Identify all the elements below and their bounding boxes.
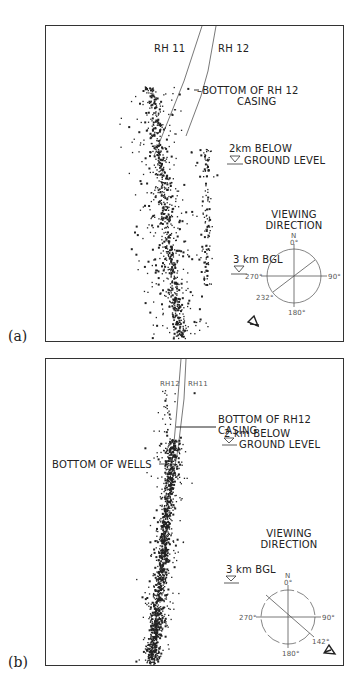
- depth-3km-label: 3 km BGL: [233, 254, 283, 265]
- depth-2km-line1: 2km BELOW: [229, 143, 292, 154]
- compass-view-angle: 142°: [312, 637, 330, 648]
- viewing-direction-title: VIEWINGDIRECTION: [264, 209, 324, 231]
- casing-annotation-line1: –BOTTOM OF RH 12: [197, 85, 299, 96]
- well-label-rh12: RH12: [160, 379, 180, 390]
- panel-label-b: (b): [8, 654, 28, 670]
- depth-marker-3km-icon: [226, 576, 236, 581]
- panel-label-a: (a): [8, 328, 27, 344]
- panel-a-seismic-projection: RH 11 RH 12 –BOTTOM OF RH 12 CASING 2km …: [45, 25, 344, 342]
- event-scatter-b: [46, 359, 345, 667]
- panel-b-seismic-projection: RH12 RH11 BOTTOM OF RH12 CASING BOTTOM O…: [45, 358, 344, 666]
- well-label-rh12: RH 12: [218, 43, 249, 54]
- casing-annotation-line2: CASING: [237, 96, 277, 107]
- compass-90: 90°: [322, 613, 335, 624]
- viewer-eye-icon: [248, 316, 259, 326]
- compass-270: 270°: [245, 272, 263, 283]
- depth-2km-line2: GROUND LEVEL: [239, 439, 320, 450]
- wells-bottom-annotation: BOTTOM OF WELLS: [52, 459, 152, 470]
- compass-view-angle: 232°: [256, 293, 274, 304]
- well-label-rh11: RH 11: [154, 43, 185, 54]
- depth-3km-label: 3 km BGL: [226, 564, 276, 575]
- compass-0: 0°: [290, 238, 298, 249]
- compass-270: 270°: [239, 613, 257, 624]
- well-trace-rh12: [186, 26, 216, 136]
- depth-2km-line1: 2 km BELOW: [224, 428, 290, 439]
- compass-0: 0°: [284, 578, 292, 589]
- casing-annotation-line1: BOTTOM OF RH12: [218, 414, 311, 425]
- viewing-direction-title: VIEWINGDIRECTION: [256, 528, 322, 550]
- compass-180: 180°: [282, 649, 300, 660]
- depth-2km-line2: GROUND LEVEL: [244, 155, 325, 166]
- compass-180: 180°: [288, 308, 306, 319]
- depth-marker-3km-icon: [234, 266, 244, 272]
- well-label-rh11: RH11: [188, 379, 208, 390]
- depth-marker-2km-icon: [230, 156, 240, 162]
- event-scatter-a: [46, 26, 345, 343]
- compass-90: 90°: [328, 272, 341, 283]
